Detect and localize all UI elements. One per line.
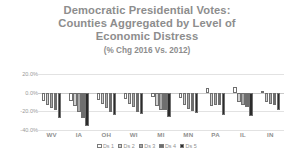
legend-label: Ds 1 <box>103 143 114 149</box>
bar[interactable] <box>140 93 143 114</box>
legend-item[interactable]: Ds 1 <box>97 143 114 149</box>
bar[interactable] <box>151 93 154 98</box>
legend-label: Ds 4 <box>165 143 176 149</box>
bar-slot <box>245 74 248 130</box>
bar-slot <box>167 74 170 130</box>
bar-slot <box>105 74 108 130</box>
bar[interactable] <box>237 93 240 103</box>
bar[interactable] <box>109 93 112 112</box>
chart-title-line-2: Counties Aggregated by Level of <box>0 17 294 30</box>
plot-area <box>38 74 284 130</box>
bar[interactable] <box>233 87 236 93</box>
bar[interactable] <box>77 93 80 113</box>
bar-slot <box>128 74 131 130</box>
bar[interactable] <box>249 93 252 116</box>
bar-slot <box>269 74 272 130</box>
bar[interactable] <box>128 93 131 104</box>
chart-title-block: Democratic Presidential Votes: Counties … <box>0 4 294 56</box>
bar-slot <box>233 74 236 130</box>
bar[interactable] <box>101 93 104 104</box>
bar[interactable] <box>241 93 244 105</box>
x-axis-labels: WVIAOHWIMIMNPAILIN <box>38 131 284 138</box>
legend-swatch-icon <box>180 144 184 148</box>
y-axis-tick-label: -20.0% <box>20 108 38 114</box>
bar[interactable] <box>163 93 166 111</box>
bar-slot <box>54 74 57 130</box>
bar-slot <box>241 74 244 130</box>
bar[interactable] <box>195 93 198 113</box>
legend-swatch-icon <box>97 144 101 148</box>
bar-slot <box>277 74 280 130</box>
bar-slot <box>222 74 225 130</box>
bar-slot <box>113 74 116 130</box>
bar[interactable] <box>42 93 45 101</box>
bar[interactable] <box>273 93 276 106</box>
bar-group <box>147 74 174 130</box>
bar-slot <box>109 74 112 130</box>
x-axis-tick-label: WI <box>120 131 147 138</box>
bar-slot <box>77 74 80 130</box>
bar-slot <box>50 74 53 130</box>
bar[interactable] <box>97 93 100 100</box>
bar-slot <box>97 74 100 130</box>
bar[interactable] <box>81 93 84 118</box>
bar[interactable] <box>265 93 268 102</box>
bar-group <box>38 74 65 130</box>
bar-slot <box>101 74 104 130</box>
bar[interactable] <box>58 93 61 118</box>
bar-slot <box>237 74 240 130</box>
bar[interactable] <box>222 93 225 115</box>
bar[interactable] <box>191 93 194 112</box>
legend-item[interactable]: Ds 3 <box>139 143 156 149</box>
legend-label: Ds 2 <box>124 143 135 149</box>
bar-group <box>202 74 229 130</box>
bar[interactable] <box>245 93 248 107</box>
bar-slot <box>42 74 45 130</box>
bar-slot <box>132 74 135 130</box>
bar-slot <box>273 74 276 130</box>
bar[interactable] <box>183 93 186 105</box>
legend-item[interactable]: Ds 2 <box>118 143 135 149</box>
bar-slot <box>206 74 209 130</box>
bar[interactable] <box>50 93 53 108</box>
bar-slot <box>124 74 127 130</box>
bar-group <box>120 74 147 130</box>
bar[interactable] <box>179 93 182 98</box>
bar-slot <box>261 74 264 130</box>
chart-legend: Ds 1Ds 2Ds 3Ds 4Ds 5 <box>0 143 294 149</box>
bar[interactable] <box>277 93 280 110</box>
bar-group <box>65 74 92 130</box>
bar[interactable] <box>105 93 108 108</box>
bar-slot <box>218 74 221 130</box>
x-axis-tick-label: IN <box>257 131 284 138</box>
bar-slot <box>214 74 217 130</box>
legend-item[interactable]: Ds 4 <box>159 143 176 149</box>
bar[interactable] <box>132 93 135 107</box>
bar-slot <box>265 74 268 130</box>
bar[interactable] <box>218 93 221 105</box>
bar[interactable] <box>46 93 49 105</box>
bar[interactable] <box>69 93 72 101</box>
bar-slot <box>159 74 162 130</box>
legend-item[interactable]: Ds 5 <box>180 143 197 149</box>
bar[interactable] <box>136 93 139 112</box>
bar[interactable] <box>261 91 264 93</box>
bar[interactable] <box>187 93 190 109</box>
bar[interactable] <box>167 93 170 117</box>
legend-swatch-icon <box>139 144 143 148</box>
bar-slot <box>187 74 190 130</box>
bar[interactable] <box>159 93 162 110</box>
bar[interactable] <box>155 93 158 107</box>
bar[interactable] <box>85 93 88 127</box>
y-axis-tick-label: 20.0% <box>22 71 38 77</box>
bar[interactable] <box>206 88 209 92</box>
bar[interactable] <box>73 93 76 106</box>
bar-slot <box>151 74 154 130</box>
bar[interactable] <box>113 93 116 115</box>
bar[interactable] <box>54 93 57 110</box>
bar-group <box>93 74 120 130</box>
bar[interactable] <box>214 93 217 106</box>
bar[interactable] <box>124 93 127 99</box>
bar[interactable] <box>210 93 213 106</box>
bar[interactable] <box>269 93 272 105</box>
